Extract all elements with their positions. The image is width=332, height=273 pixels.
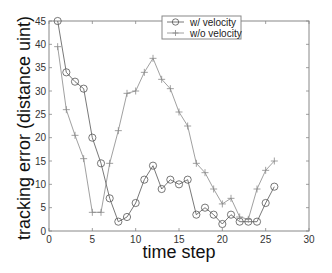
y-tick-label: 15	[35, 156, 47, 167]
y-tick-label: 20	[35, 132, 47, 143]
y-tick-label: 45	[35, 16, 47, 27]
legend: w/ velocity w/o velocity	[162, 16, 242, 39]
y-tick-label: 35	[35, 62, 47, 73]
x-tick-label: 5	[90, 234, 96, 245]
plot-area	[49, 21, 309, 231]
y-tick-label: 30	[35, 86, 47, 97]
legend-label-wo-velocity: w/o velocity	[189, 28, 242, 39]
y-tick-label: 5	[40, 202, 46, 213]
x-tick-label: 30	[303, 234, 315, 245]
x-tick-label: 0	[46, 234, 52, 245]
y-tick-label: 25	[35, 109, 47, 120]
line-chart: 051015202530354045 051015202530 time ste…	[0, 0, 332, 273]
y-tick-label: 40	[35, 39, 47, 50]
y-axis-label: tracking error (distance uint)	[14, 16, 34, 240]
x-axis-label: time step	[142, 242, 215, 262]
y-tick-label: 10	[35, 179, 47, 190]
x-tick-label: 20	[217, 234, 229, 245]
x-tick-label: 25	[260, 234, 272, 245]
x-tick-label: 10	[130, 234, 142, 245]
legend-label-w-velocity: w/ velocity	[189, 17, 236, 28]
